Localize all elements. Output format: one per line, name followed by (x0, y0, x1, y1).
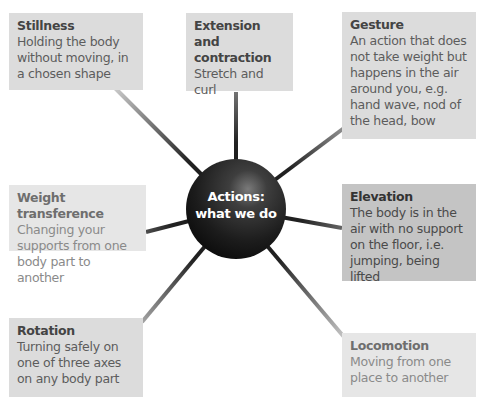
node-locomotion: Locomotion Moving from one place to anot… (342, 333, 476, 397)
hub-label: Actions: what we do (186, 188, 286, 222)
node-title: Elevation (350, 189, 469, 205)
node-description: Holding the body without moving, in a ch… (17, 34, 129, 82)
node-title: Locomotion (350, 338, 469, 354)
node-description: Stretch and curl (194, 66, 286, 98)
node-title: Weight transference (17, 190, 139, 222)
node-description: Changing your supports from one body par… (17, 222, 139, 286)
node-gesture: Gesture An action that does not take wei… (342, 12, 476, 139)
node-weight-transference: Weight transference Changing your suppor… (9, 185, 146, 251)
hub-label-line2: what we do (186, 205, 286, 222)
node-description: Moving from one place to another (350, 354, 455, 386)
node-elevation: Elevation The body is in the air with no… (342, 184, 476, 281)
node-title: Extension and contraction (194, 18, 286, 66)
node-title: Gesture (350, 17, 469, 33)
node-title: Rotation (17, 323, 136, 339)
node-title: Stillness (17, 18, 136, 34)
node-stillness: Stillness Holding the body without movin… (9, 13, 143, 90)
node-description: An action that does not take weight but … (350, 33, 469, 129)
node-description: The body is in the air with no support o… (350, 205, 469, 285)
node-description: Turning safely on one of three axes on a… (17, 339, 136, 387)
hub-label-line1: Actions: (186, 188, 286, 205)
node-extension-contraction: Extension and contraction Stretch and cu… (186, 13, 293, 91)
node-rotation: Rotation Turning safely on one of three … (9, 318, 143, 397)
